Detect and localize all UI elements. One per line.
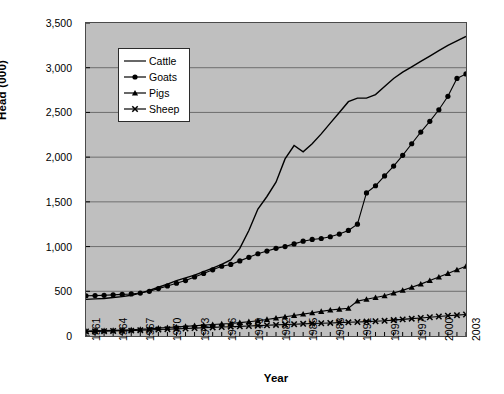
x-tick-label: 1970 (171, 318, 183, 341)
legend-key-icon (123, 54, 147, 68)
x-axis-tick-labels: 1961196419671970197319761979198219851988… (0, 0, 504, 394)
legend-item-goats[interactable]: Goats (123, 69, 184, 85)
x-tick-label: 1964 (117, 318, 129, 341)
x-tick-label: 1991 (361, 318, 373, 341)
x-tick-label: 2000 (443, 318, 455, 341)
legend-item-sheep[interactable]: Sheep (123, 101, 184, 117)
legend-item-cattle[interactable]: Cattle (123, 53, 184, 69)
legend-key-icon (123, 70, 147, 84)
x-tick-label: 1973 (199, 318, 211, 341)
legend: CattleGoatsPigsSheep (118, 48, 190, 122)
x-tick-label: 1985 (307, 318, 319, 341)
legend-key-icon (123, 86, 147, 100)
x-tick-label: 1979 (253, 318, 265, 341)
line-chart: 05001,0001,5002,0002,5003,0003,500 Head … (0, 0, 504, 394)
x-tick-label: 1967 (144, 318, 156, 341)
legend-item-label: Pigs (149, 87, 169, 99)
legend-item-label: Cattle (149, 55, 176, 67)
x-tick-label: 1976 (226, 318, 238, 341)
x-tick-label: 1988 (334, 318, 346, 341)
legend-key-icon (123, 102, 147, 116)
legend-item-label: Goats (149, 71, 177, 83)
legend-item-pigs[interactable]: Pigs (123, 85, 184, 101)
x-tick-label: 2003 (470, 318, 482, 341)
x-tick-label: 1982 (280, 318, 292, 341)
x-axis-title: Year (85, 372, 467, 384)
x-tick-label: 1994 (389, 318, 401, 341)
x-tick-label: 1997 (416, 318, 428, 341)
legend-item-label: Sheep (149, 103, 179, 115)
x-tick-label: 1961 (90, 318, 102, 341)
